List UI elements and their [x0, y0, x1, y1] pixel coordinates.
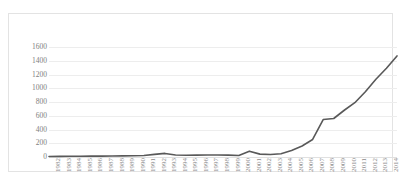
y-axis-tick-label: 0 — [43, 153, 47, 161]
x-axis-tick-label: 1989 — [129, 158, 136, 172]
x-axis-tick-label: 2004 — [287, 158, 294, 172]
plot-area — [49, 47, 397, 157]
x-axis-tick-label: 2014 — [393, 158, 400, 172]
y-axis-tick-label: 600 — [36, 112, 47, 120]
x-axis-tick-label: 2006 — [308, 158, 315, 172]
series-line — [49, 47, 397, 157]
y-axis-tick-label: 200 — [36, 139, 47, 147]
x-axis-tick-label: 2013 — [382, 158, 389, 172]
x-axis-tick-label: 2005 — [298, 158, 305, 172]
x-axis-tick-label: 1996 — [203, 158, 210, 172]
x-axis-tick-label: 1995 — [192, 158, 199, 172]
x-axis-tick-label: 1994 — [182, 158, 189, 172]
x-axis-tick-label: 1982 — [55, 158, 62, 172]
x-axis-tick-label: 1986 — [97, 158, 104, 172]
x-axis-tick-label: 1983 — [66, 158, 73, 172]
page-caption — [0, 0, 402, 9]
y-axis-tick-label: 400 — [36, 126, 47, 134]
y-axis: 16001400120010008006004002000 — [17, 47, 47, 157]
y-axis-tick-label: 1200 — [32, 71, 47, 79]
x-axis: 1982198319841985198619871988198919901991… — [49, 158, 397, 181]
x-axis-tick-label: 1984 — [76, 158, 83, 172]
y-axis-tick-label: 800 — [36, 98, 47, 106]
x-axis-tick-label: 1999 — [235, 158, 242, 172]
x-axis-tick-label: 2011 — [361, 158, 368, 172]
y-axis-tick-label: 1000 — [32, 84, 47, 92]
x-axis-tick-label: 1998 — [224, 158, 231, 172]
x-axis-tick-label: 2007 — [319, 158, 326, 172]
y-axis-tick-label: 1600 — [32, 43, 47, 51]
x-axis-tick-label: 1993 — [171, 158, 178, 172]
x-axis-tick-label: 1992 — [161, 158, 168, 172]
chart-screenshot: 16001400120010008006004002000 1982198319… — [0, 0, 402, 181]
x-axis-tick-label: 1990 — [140, 158, 147, 172]
x-axis-tick-label: 2003 — [277, 158, 284, 172]
x-axis-tick-label: 2009 — [340, 158, 347, 172]
x-axis-tick-label: 2008 — [329, 158, 336, 172]
x-axis-tick-label: 2010 — [351, 158, 358, 172]
x-axis-tick-label: 1991 — [150, 158, 157, 172]
x-axis-tick-label: 1988 — [119, 158, 126, 172]
x-axis-tick-label: 1987 — [108, 158, 115, 172]
chart-frame: 16001400120010008006004002000 1982198319… — [8, 13, 393, 172]
x-axis-tick-label: 2002 — [266, 158, 273, 172]
x-axis-tick-label: 2000 — [245, 158, 252, 172]
x-axis-tick-label: 2012 — [372, 158, 379, 172]
x-axis-tick-label: 2001 — [256, 158, 263, 172]
y-axis-tick-label: 1400 — [32, 57, 47, 65]
x-axis-tick-label: 1997 — [213, 158, 220, 172]
x-axis-tick-label: 1985 — [87, 158, 94, 172]
